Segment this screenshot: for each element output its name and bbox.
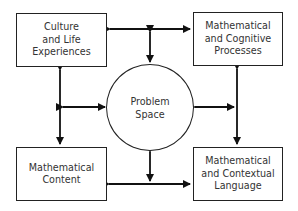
node-culture-life-experiences: Culture and Life Experiences — [16, 13, 107, 67]
node-mathematical-cognitive-processes: Mathematical and Cognitive Processes — [193, 12, 283, 66]
node-label: Culture and Life Experiences — [32, 21, 91, 59]
node-mathematical-contextual-language: Mathematical and Contextual Language — [193, 147, 283, 201]
node-label: Mathematical and Cognitive Processes — [205, 20, 272, 58]
node-label: Mathematical Content — [29, 162, 94, 187]
node-label: Mathematical and Contextual Language — [201, 155, 274, 193]
center-label: Problem Space — [130, 95, 169, 121]
node-mathematical-content: Mathematical Content — [16, 147, 107, 201]
center-problem-space: Problem Space — [106, 64, 194, 151]
